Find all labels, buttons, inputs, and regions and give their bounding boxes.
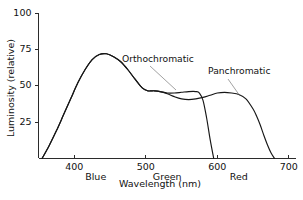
chart-figure: 255075100 400500600700 OrthochromaticPan… — [0, 0, 303, 200]
series-label-panchromatic: Panchromatic — [208, 65, 270, 76]
series-label-orthochromatic: Orthochromatic — [122, 53, 194, 64]
leader-line-orthochromatic — [150, 66, 176, 90]
x-axis-title: Wavelength (nm) — [119, 178, 201, 189]
x-tick-group: 400500600700 — [65, 155, 298, 172]
y-axis-title: Luminosity (relative) — [5, 39, 16, 137]
band-label: Red — [230, 171, 248, 182]
x-tick-label: 700 — [280, 161, 298, 172]
y-tick-group: 255075100 — [13, 7, 38, 127]
series-label-group: OrthochromaticPanchromatic — [122, 53, 270, 76]
y-tick-label: 50 — [19, 79, 31, 90]
y-tick-label: 75 — [19, 43, 31, 54]
band-label: Blue — [85, 171, 106, 182]
y-tick-label: 25 — [19, 116, 31, 127]
x-tick-label: 600 — [208, 161, 226, 172]
x-tick-label: 400 — [65, 161, 83, 172]
luminosity-response-chart: 255075100 400500600700 OrthochromaticPan… — [0, 0, 303, 200]
y-tick-label: 100 — [13, 7, 31, 18]
axes-group — [39, 13, 297, 159]
